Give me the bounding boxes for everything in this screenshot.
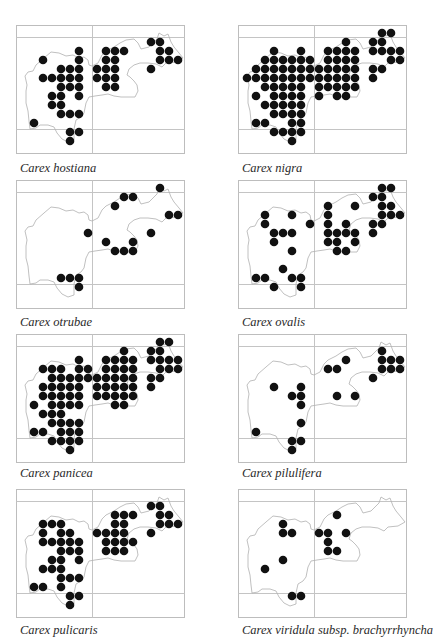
- occurrence-dot: [288, 128, 297, 137]
- occurrence-dot: [261, 101, 270, 110]
- occurrence-dot: [342, 247, 351, 256]
- occurrence-dot: [297, 437, 306, 446]
- occurrence-dot: [102, 56, 111, 65]
- occurrence-dot: [288, 101, 297, 110]
- occurrence-dot: [288, 446, 297, 455]
- occurrence-dot: [102, 383, 111, 392]
- occurrence-dot: [147, 502, 156, 511]
- occurrence-dot: [120, 529, 129, 538]
- occurrence-dot: [270, 83, 279, 92]
- occurrence-dot: [48, 520, 57, 529]
- occurrence-dot: [66, 374, 75, 383]
- occurrence-dot: [369, 65, 378, 74]
- occurrence-dot: [147, 65, 156, 74]
- map-caption-carex-ovalis: Carex ovalis: [242, 315, 305, 329]
- occurrence-dot: [270, 92, 279, 101]
- occurrence-dot: [270, 47, 279, 56]
- occurrence-dot: [120, 347, 129, 356]
- map-panel-carex-viridula: [238, 489, 408, 619]
- occurrence-dot: [66, 446, 75, 455]
- occurrence-dot: [288, 83, 297, 92]
- occurrence-dot: [270, 128, 279, 137]
- occurrence-dot: [39, 538, 48, 547]
- occurrence-dot: [84, 229, 93, 238]
- occurrence-dot: [75, 547, 84, 556]
- occurrence-dot: [174, 211, 183, 220]
- occurrence-dot: [279, 229, 288, 238]
- occurrence-dot: [324, 238, 333, 247]
- occurrence-dot: [324, 365, 333, 374]
- occurrence-dot: [75, 538, 84, 547]
- occurrence-dot: [270, 238, 279, 247]
- occurrence-dot: [66, 128, 75, 137]
- occurrence-dot: [378, 202, 387, 211]
- occurrence-dot: [111, 74, 120, 83]
- occurrence-dot: [75, 556, 84, 565]
- occurrence-dot: [324, 538, 333, 547]
- map-caption-carex-nigra: Carex nigra: [242, 161, 302, 175]
- map-panel-carex-pulicaris: [16, 489, 186, 619]
- occurrence-dot: [129, 247, 138, 256]
- occurrence-dot: [66, 83, 75, 92]
- occurrence-dot: [288, 119, 297, 128]
- occurrence-dot: [156, 502, 165, 511]
- occurrence-dot: [75, 374, 84, 383]
- occurrence-dot: [111, 202, 120, 211]
- occurrence-dot: [297, 283, 306, 292]
- occurrence-dot: [102, 83, 111, 92]
- occurrence-dot: [66, 419, 75, 428]
- occurrence-dot: [111, 383, 120, 392]
- map-panel-carex-otrubae: [16, 180, 186, 310]
- occurrence-dot: [120, 511, 129, 520]
- occurrence-dot: [243, 74, 252, 83]
- occurrence-dot: [270, 110, 279, 119]
- occurrence-dot: [174, 56, 183, 65]
- occurrence-dot: [261, 565, 270, 574]
- occurrence-dot: [30, 428, 39, 437]
- occurrence-dot: [75, 110, 84, 119]
- occurrence-dot: [57, 437, 66, 446]
- map-panel-carex-ovalis: [238, 180, 408, 310]
- occurrence-dot: [261, 56, 270, 65]
- occurrence-dot: [174, 520, 183, 529]
- occurrence-dot: [333, 392, 342, 401]
- occurrence-dot: [252, 65, 261, 74]
- occurrence-dot: [75, 128, 84, 137]
- occurrence-dot: [369, 374, 378, 383]
- occurrence-dot: [120, 247, 129, 256]
- distribution-map: [16, 489, 186, 619]
- occurrence-dot: [315, 74, 324, 83]
- occurrence-dot: [102, 392, 111, 401]
- occurrence-dot: [261, 211, 270, 220]
- occurrence-dot: [252, 119, 261, 128]
- occurrence-dot: [342, 38, 351, 47]
- occurrence-dot: [288, 211, 297, 220]
- occurrence-dot: [342, 47, 351, 56]
- occurrence-dot: [324, 547, 333, 556]
- occurrence-dot: [75, 47, 84, 56]
- occurrence-dot: [57, 574, 66, 583]
- occurrence-dot: [378, 29, 387, 38]
- occurrence-dot: [75, 65, 84, 74]
- occurrence-dot: [84, 365, 93, 374]
- occurrence-dot: [315, 529, 324, 538]
- occurrence-dot: [129, 511, 138, 520]
- occurrence-dot: [351, 65, 360, 74]
- occurrence-dot: [66, 592, 75, 601]
- occurrence-dot: [66, 437, 75, 446]
- occurrence-dot: [57, 74, 66, 83]
- occurrence-dot: [387, 29, 396, 38]
- occurrence-dot: [297, 92, 306, 101]
- occurrence-dot: [333, 83, 342, 92]
- occurrence-dot: [57, 383, 66, 392]
- occurrence-dot: [102, 374, 111, 383]
- occurrence-dot: [120, 538, 129, 547]
- occurrence-dot: [75, 83, 84, 92]
- occurrence-dot: [57, 101, 66, 110]
- occurrence-dot: [324, 220, 333, 229]
- occurrence-dot: [315, 83, 324, 92]
- occurrence-dot: [288, 110, 297, 119]
- occurrence-dot: [333, 47, 342, 56]
- occurrence-dot: [165, 338, 174, 347]
- occurrence-dot: [120, 193, 129, 202]
